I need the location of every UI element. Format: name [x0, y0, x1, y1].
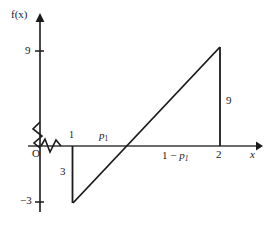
- interval-label-p1: p1: [99, 130, 108, 142]
- drop-height-label-3: 3: [60, 166, 66, 177]
- interval-label-one-minus-p1: 1 − p1: [162, 150, 188, 162]
- rise-height-label-9: 9: [226, 95, 232, 106]
- y-axis-arrowhead: [36, 13, 45, 22]
- interval-label-one-minus-p1-subscript: 1: [185, 154, 189, 163]
- interval-label-p1-subscript: 1: [105, 134, 109, 143]
- x-value-label-1: 1: [69, 130, 74, 140]
- x-axis-arrowhead: [256, 142, 263, 151]
- x-axis-label: x: [250, 149, 255, 160]
- origin-label: O: [32, 148, 40, 159]
- y-tick-label-minus-3: −3: [20, 195, 32, 206]
- y-tick-label-9: 9: [25, 45, 31, 56]
- figure-canvas: f(x) x O 9 −3 1 2 3 9 p1 1 − p1: [0, 0, 267, 226]
- x-value-label-2: 2: [216, 149, 222, 160]
- interval-label-one-minus-p1-prefix: 1 −: [162, 149, 179, 161]
- y-axis-label: f(x): [11, 9, 28, 20]
- graph-svg: [0, 0, 267, 226]
- function-line: [73, 47, 220, 203]
